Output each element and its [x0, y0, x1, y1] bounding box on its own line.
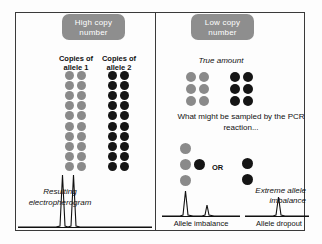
- badge-low-copy-number: Low copy number: [191, 14, 254, 40]
- dot: [243, 72, 253, 82]
- dot: [230, 96, 240, 106]
- panel-divider: [155, 13, 156, 230]
- dot: [186, 96, 196, 106]
- dot: [77, 162, 86, 171]
- dot: [65, 71, 74, 80]
- dot: [108, 71, 117, 80]
- dot: [108, 111, 117, 120]
- caption-true-amount: True amount: [186, 56, 256, 66]
- dot: [186, 84, 196, 94]
- badge-high-copy-number: High copy number: [62, 14, 125, 40]
- dot: [108, 101, 117, 110]
- label-allele-imbalance: Allele imbalance: [160, 219, 242, 228]
- dot: [77, 152, 86, 161]
- dot: [120, 71, 129, 80]
- dot: [199, 72, 209, 82]
- dot: [120, 111, 129, 120]
- sampled-dot-gray-2: [180, 159, 191, 170]
- chart-resulting-electropherogram: [16, 172, 154, 230]
- caption-extreme-allele-imbalance: Extreme allele imbalance: [240, 186, 306, 206]
- dot: [120, 81, 129, 90]
- dot: [65, 91, 74, 100]
- dot: [120, 122, 129, 131]
- dot: [120, 142, 129, 151]
- dot: [108, 91, 117, 100]
- dot: [65, 142, 74, 151]
- label-allele-dropout: Allele dropout: [243, 219, 315, 228]
- dot: [108, 142, 117, 151]
- dot: [65, 101, 74, 110]
- caption-what-might-be-sampled: What might be sampled by the PCR reactio…: [176, 112, 306, 133]
- dot: [108, 81, 117, 90]
- dot: [77, 81, 86, 90]
- sampled-dot-gray-3: [180, 175, 191, 186]
- dot: [199, 84, 209, 94]
- dot: [108, 152, 117, 161]
- dot: [120, 91, 129, 100]
- dot: [243, 84, 253, 94]
- dot: [120, 152, 129, 161]
- figure-root: High copy number Copies of allele 1 Copi…: [0, 0, 322, 244]
- dot: [77, 122, 86, 131]
- dot: [120, 101, 129, 110]
- sampled-dot-black-2: [242, 158, 253, 169]
- dot: [199, 96, 209, 106]
- dot: [77, 91, 86, 100]
- dot: [65, 132, 74, 141]
- dot: [77, 142, 86, 151]
- sampled-dot-black-1: [194, 159, 205, 170]
- dot: [243, 96, 253, 106]
- dot-grid-true-allele-2: [228, 71, 254, 107]
- sampled-dot-black-3: [242, 174, 253, 185]
- dot: [120, 132, 129, 141]
- dot: [77, 132, 86, 141]
- dot-grid-true-allele-1: [184, 71, 210, 107]
- dot-grid-allele-2: [107, 70, 130, 172]
- dot: [65, 111, 74, 120]
- dot: [230, 72, 240, 82]
- dot-grid-allele-1: [64, 70, 87, 172]
- dot: [120, 162, 129, 171]
- dot: [77, 71, 86, 80]
- dot: [108, 132, 117, 141]
- dot: [77, 101, 86, 110]
- dot: [65, 122, 74, 131]
- sampled-dot-gray-1: [180, 143, 191, 154]
- dot: [77, 111, 86, 120]
- dot: [65, 81, 74, 90]
- dot: [108, 122, 117, 131]
- dot: [108, 162, 117, 171]
- chart-allele-imbalance: [160, 188, 244, 220]
- dot: [186, 72, 196, 82]
- dot: [230, 84, 240, 94]
- dot: [65, 162, 74, 171]
- or-label: OR: [212, 163, 223, 172]
- dot: [65, 152, 74, 161]
